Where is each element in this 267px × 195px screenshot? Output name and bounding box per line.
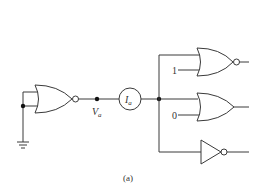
va-label: Va xyxy=(92,106,102,119)
load-or-gate xyxy=(178,93,249,121)
ground-connection xyxy=(21,92,38,142)
load-not-gate xyxy=(159,140,249,164)
figure-caption: (a) xyxy=(123,173,133,183)
va-node-dot xyxy=(95,97,99,101)
nor-input-one-label: 1 xyxy=(172,65,177,76)
circuit-diagram: Va Ia 1 0 (a) xyxy=(0,0,267,195)
or-input-zero-label: 0 xyxy=(172,110,177,121)
driver-nor-gate xyxy=(35,85,79,113)
ammeter-ia: Ia xyxy=(119,88,141,110)
ground-icon xyxy=(17,142,29,148)
